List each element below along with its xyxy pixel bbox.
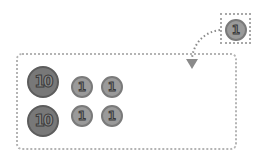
coin-10: 10 — [27, 105, 59, 137]
coin-10: 10 — [27, 66, 59, 98]
coin-label: 1 — [78, 109, 86, 123]
coin-label: 1 — [108, 80, 116, 94]
coin-label: 1 — [78, 80, 86, 94]
coin-label: 10 — [35, 73, 52, 91]
coin-label: 1 — [108, 109, 116, 123]
coin-1: 1 — [101, 76, 123, 98]
coin-1: 1 — [101, 105, 123, 127]
coin-1: 1 — [71, 105, 93, 127]
coin-label: 10 — [35, 112, 52, 130]
coin-1: 1 — [71, 76, 93, 98]
